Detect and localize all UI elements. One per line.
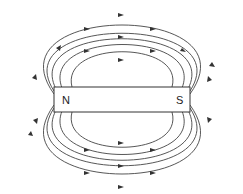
arrow-icon xyxy=(84,171,90,175)
field-line-bottom-3 xyxy=(52,110,192,160)
field-line-bottom-4 xyxy=(47,108,197,166)
arrow-icon xyxy=(150,148,156,152)
arrow-icon xyxy=(150,171,156,175)
south-pole-label: S xyxy=(176,94,183,106)
magnet-body xyxy=(54,87,190,112)
arrow-icon xyxy=(84,148,90,152)
bar-magnet: N S xyxy=(54,87,190,112)
north-pole-label: N xyxy=(62,94,70,106)
arrow-icon xyxy=(28,131,33,136)
field-line-bottom-1 xyxy=(71,112,173,147)
arrow-icon xyxy=(118,141,124,145)
arrow-icon xyxy=(84,27,90,31)
field-line-top-1 xyxy=(71,52,173,87)
arrow-icon xyxy=(118,58,124,62)
arrow-icon xyxy=(32,74,37,80)
arrow-icon xyxy=(207,76,212,82)
field-lines-bottom xyxy=(43,105,200,174)
field-line-top-2 xyxy=(60,45,184,89)
field-line-bottom-2 xyxy=(60,111,184,155)
field-line-bottom-5 xyxy=(43,105,200,174)
arrow-icon xyxy=(118,164,124,168)
arrow-icon xyxy=(207,117,212,123)
arrow-icon xyxy=(118,13,124,17)
field-line-top-3 xyxy=(52,39,192,89)
field-diagram: N S xyxy=(0,0,243,194)
field-line-top-4 xyxy=(47,33,197,91)
arrow-icon xyxy=(209,62,215,67)
arrow-icon xyxy=(118,185,124,189)
arrow-icon xyxy=(180,48,186,52)
arrow-icon xyxy=(150,49,156,53)
arrow-icon xyxy=(33,118,38,124)
